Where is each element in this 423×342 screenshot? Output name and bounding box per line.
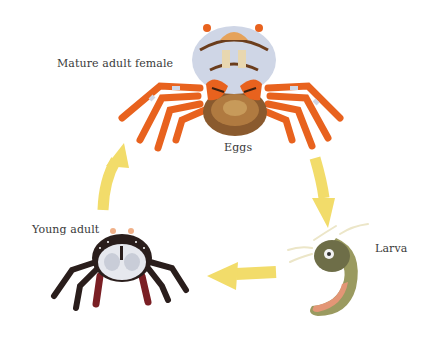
mature-female-crab-illustration — [122, 24, 340, 148]
diagram-graphics — [0, 0, 423, 342]
arrow-eggs-to-larva — [312, 158, 335, 228]
young-adult-crab-illustration — [54, 228, 186, 308]
arrow-young-to-mature — [103, 143, 129, 210]
larva-illustration — [288, 224, 368, 316]
label-young-adult: Young adult — [32, 223, 99, 236]
label-mature-adult-female: Mature adult female — [57, 57, 173, 70]
arrow-larva-to-young — [207, 262, 276, 290]
life-cycle-diagram: Mature adult female Eggs Larva Young adu… — [0, 0, 423, 342]
label-eggs: Eggs — [224, 141, 252, 154]
label-larva: Larva — [375, 242, 407, 255]
